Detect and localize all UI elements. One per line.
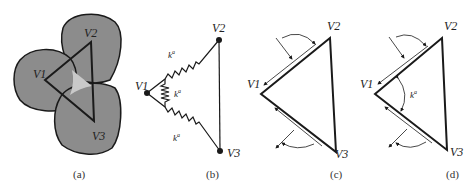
panel-b: V1 V2 V3 ka ka ka (b)	[135, 21, 240, 181]
vertex-label-v3: V3	[227, 146, 240, 160]
force-arrow-lower	[385, 107, 432, 143]
force-arrow-upper	[264, 44, 316, 85]
rotation-arrow-lower	[396, 142, 426, 147]
spring-upper	[147, 40, 219, 93]
triangle	[261, 38, 336, 152]
force-arrow-lower	[275, 108, 322, 146]
vertex-label-v2: V2	[212, 21, 225, 35]
spring-lower	[147, 93, 220, 151]
rotation-arrow-upper	[396, 35, 426, 46]
node-v3	[217, 148, 223, 154]
panel-c: V1 V2 V3 (c)	[247, 19, 348, 181]
push-arrow-lower	[276, 130, 294, 148]
caption-a: (a)	[73, 168, 86, 181]
vertex-label-v3: V3	[92, 129, 105, 143]
region-v3	[55, 83, 121, 154]
spring-label-upper: ka	[168, 49, 175, 60]
vertex-label-v2: V2	[327, 19, 340, 33]
panel-d: ka V1 V2 V3 (d)	[360, 19, 463, 181]
caption-d: (d)	[446, 168, 459, 181]
vertex-label-v2: V2	[84, 26, 97, 40]
node-v2	[216, 37, 222, 43]
caption-b: (b)	[206, 168, 219, 181]
vertex-label-v1: V1	[360, 77, 373, 91]
rotation-arrow-upper	[282, 34, 315, 44]
spring-label-middle: ka	[174, 88, 181, 99]
vertex-label-v1: V1	[247, 77, 260, 91]
rotation-arrow-lower	[282, 143, 314, 148]
spring-label-lower: ka	[173, 132, 180, 143]
panel-a: V1 V2 V3 (a)	[14, 14, 121, 181]
push-arrow-upper	[276, 38, 292, 59]
caption-c: (c)	[330, 168, 343, 181]
spring-middle	[161, 79, 169, 107]
vertex-label-v2: V2	[444, 19, 457, 33]
diagram-canvas: V1 V2 V3 (a) V1 V2 V3 ka ka ka (b) V1 V2…	[0, 0, 472, 189]
angle-label: ka	[410, 89, 417, 100]
vertex-label-v3: V3	[335, 147, 348, 161]
vertex-label-v1: V1	[33, 67, 46, 81]
force-arrow-upper	[378, 46, 428, 84]
angle-arc	[398, 78, 405, 111]
vertex-label-v1: V1	[135, 79, 148, 93]
push-arrow-upper	[389, 37, 404, 58]
edge-v2-v3	[219, 40, 220, 151]
vertex-label-v3: V3	[450, 145, 463, 159]
